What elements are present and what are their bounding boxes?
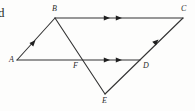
vertex-label-a: A bbox=[9, 56, 14, 64]
arrowhead-ad-2 bbox=[116, 57, 122, 62]
arrowhead-ad-1 bbox=[104, 57, 110, 62]
direction-arrowheads bbox=[29, 15, 160, 62]
vertex-label-e: E bbox=[102, 97, 107, 105]
segment-AB bbox=[17, 18, 55, 60]
geometry-figure bbox=[0, 0, 195, 111]
vertex-label-f: F bbox=[73, 62, 78, 70]
arrowhead-bc-1 bbox=[104, 15, 110, 20]
diagram-canvas: d A B C D E F bbox=[0, 0, 195, 111]
segment-BE bbox=[55, 18, 105, 94]
vertex-label-c: C bbox=[181, 5, 186, 13]
vertex-label-b: B bbox=[52, 5, 57, 13]
figure-strokes bbox=[17, 18, 183, 94]
arrowhead-bc-2 bbox=[116, 15, 122, 20]
segment-EC bbox=[105, 18, 183, 94]
vertex-label-d: D bbox=[143, 62, 149, 70]
